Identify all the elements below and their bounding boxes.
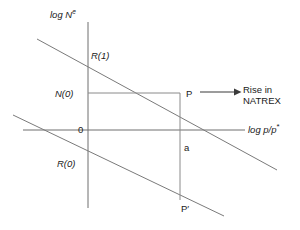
n0-label: N(0) [55, 88, 73, 99]
rise-arrow-head [234, 89, 242, 96]
r1-label: R(1) [91, 50, 109, 61]
segment-a-label: a [184, 142, 189, 153]
rise-annotation-line1: Rise in [243, 84, 272, 95]
natrex-diagram: log Ne R(1) N(0) 0 R(0) log p/p* P P′ a … [0, 0, 300, 230]
point-p-label: P [186, 88, 192, 99]
origin-label: 0 [78, 124, 83, 135]
y-axis-label: log Ne [50, 9, 76, 20]
diagram-canvas [0, 0, 300, 230]
x-axis-label: log p/p* [248, 124, 280, 135]
point-p-prime-label: P′ [181, 203, 189, 214]
rise-in-natrex-annotation: Rise in NATREX [243, 84, 281, 106]
r1-schedule-line [37, 39, 277, 170]
r0-label: R(0) [57, 158, 75, 169]
rise-annotation-line2: NATREX [243, 95, 281, 106]
